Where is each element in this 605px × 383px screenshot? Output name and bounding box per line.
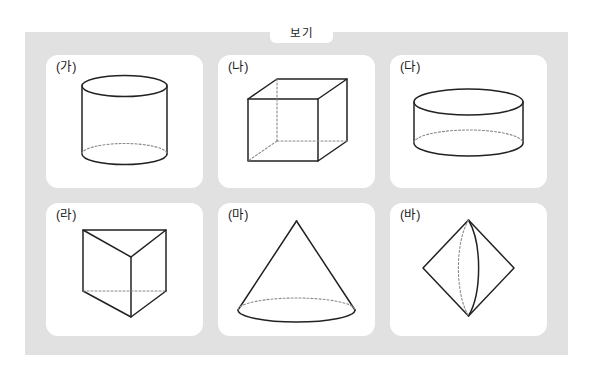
shape-card-ga[interactable]: (가) <box>46 55 203 188</box>
panel-tab-label: 보기 <box>270 21 333 43</box>
shape-card-ma[interactable]: (마) <box>218 203 375 336</box>
card-label-ra: (라) <box>56 208 76 223</box>
card-label-ba: (바) <box>400 208 420 223</box>
card-label-na: (나) <box>228 60 248 75</box>
figure-panel-root: 보기 (가) (나) <box>0 0 605 383</box>
shape-card-grid: (가) (나) <box>46 55 547 338</box>
shape-card-ra[interactable]: (라) <box>46 203 203 336</box>
card-label-da: (다) <box>400 60 420 75</box>
shape-card-da[interactable]: (다) <box>390 55 547 188</box>
card-label-ma: (마) <box>228 208 248 223</box>
shape-card-ba[interactable]: (바) <box>390 203 547 336</box>
shape-card-na[interactable]: (나) <box>218 55 375 188</box>
card-label-ga: (가) <box>56 60 76 75</box>
